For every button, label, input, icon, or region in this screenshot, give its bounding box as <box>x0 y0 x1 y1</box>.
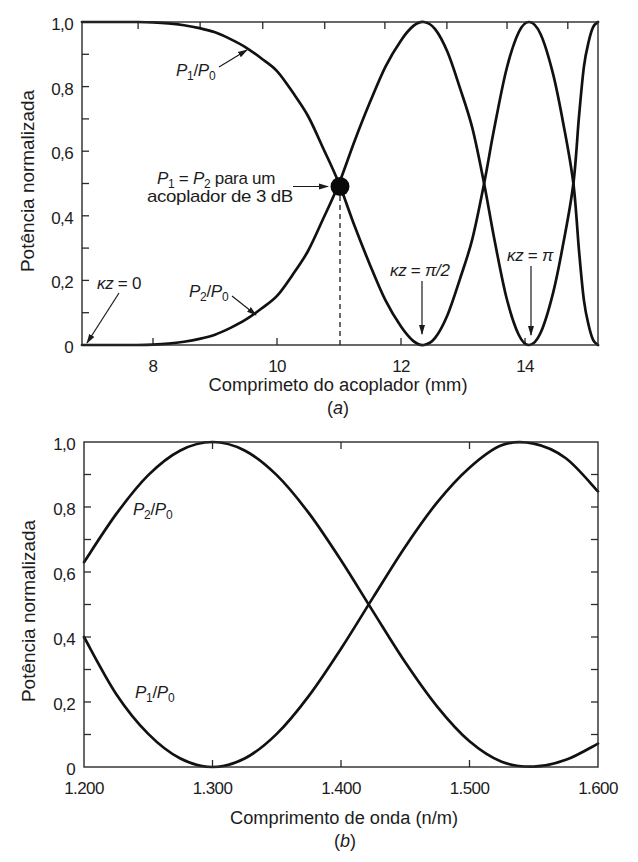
x-axis-title: Comprimento de onda (n/m) <box>230 808 458 828</box>
x-tick-label: 1.500 <box>450 779 490 798</box>
y-axis-title: Potência normalizada <box>18 89 38 272</box>
y-tick-label: 0,6 <box>51 144 73 163</box>
y-tick-label: 0,2 <box>51 273 73 292</box>
kz-half-pi-label: κz = π/2 <box>390 261 450 280</box>
x-axis-title: Comprimeto do acoplador (mm) <box>209 375 468 395</box>
y-tick-label: 0,4 <box>53 630 75 649</box>
panel-label: (a) <box>327 398 349 418</box>
y-tick-label: 1,0 <box>51 15 73 34</box>
y-tick-label: 0,8 <box>53 500 75 519</box>
x-tick-label: 14 <box>516 357 534 376</box>
y-tick-label: 0 <box>64 338 73 357</box>
y-tick-label: 0,8 <box>51 80 73 99</box>
y-tick-label: 1,0 <box>53 435 75 454</box>
y-axis-title: Potência normalizada <box>19 519 39 702</box>
three-db-point-marker <box>331 177 350 196</box>
background <box>0 0 638 862</box>
y-tick-label: 0 <box>66 760 75 779</box>
three-db-label-line2: acoplador de 3 dB <box>147 187 293 206</box>
x-tick-label: 10 <box>268 357 286 376</box>
figure: 810121400,20,40,60,81,0 P1/P0 P2/P0 κz =… <box>0 0 638 862</box>
x-tick-label: 1.300 <box>193 779 233 798</box>
kz-zero-label: κz = 0 <box>97 274 141 293</box>
y-tick-label: 0,4 <box>51 209 73 228</box>
x-tick-label: 1.600 <box>578 779 618 798</box>
x-tick-label: 1.200 <box>64 779 104 798</box>
y-tick-label: 0,6 <box>53 565 75 584</box>
kz-pi-label: κz = π <box>507 246 554 265</box>
y-tick-label: 0,2 <box>53 695 75 714</box>
x-tick-label: 12 <box>392 357 410 376</box>
x-tick-label: 8 <box>149 357 158 376</box>
panel-label: (b) <box>334 831 356 851</box>
x-tick-label: 1.400 <box>321 779 361 798</box>
